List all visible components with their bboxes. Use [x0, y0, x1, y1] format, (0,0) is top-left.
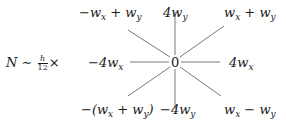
label-bottom: −4wy — [160, 103, 195, 116]
lhs-symbol: N — [6, 55, 17, 70]
center-value: 0 — [171, 56, 179, 69]
label-bottom-left: −(wx + wy) — [81, 103, 154, 116]
prefix-expression: N ∼ h 12 × — [6, 55, 60, 72]
label-left: −4wx — [88, 56, 123, 69]
label-top: 4wy — [163, 6, 188, 19]
label-right: 4wx — [229, 56, 253, 69]
label-top-right: wx + wy — [224, 6, 276, 19]
fraction-denominator: 12 — [38, 64, 48, 72]
label-top-left: −wx + wy — [79, 6, 142, 19]
times-symbol: × — [49, 55, 60, 70]
line-bottom-left — [128, 67, 170, 96]
line-top-left — [128, 30, 170, 57]
relation-symbol: ∼ — [22, 55, 33, 70]
line-bottom-right — [180, 67, 221, 96]
fraction: h 12 — [38, 55, 48, 72]
label-bottom-right: wx − wy — [224, 103, 276, 116]
line-top-right — [180, 26, 224, 57]
